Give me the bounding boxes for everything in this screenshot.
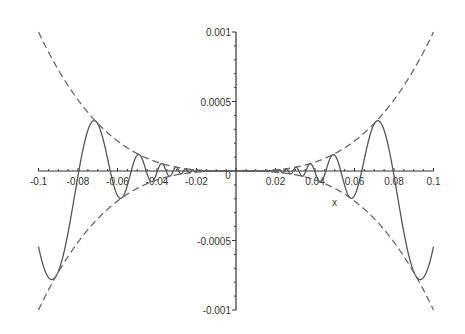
y-tick-label: 0.0005: [200, 97, 231, 108]
y-tick-label: -0.0005: [197, 236, 231, 247]
x-axis-label: x: [332, 197, 337, 208]
x-tick-label: -0.02: [185, 176, 208, 187]
x-tick-label: -0.06: [106, 176, 129, 187]
plot-canvas: -0.1-0.08-0.06-0.04-0.0200.020.040.060.0…: [0, 0, 465, 334]
y-tick-label: 0.001: [206, 27, 231, 38]
x-tick-label: 0.02: [266, 176, 286, 187]
x-tick-label: -0.1: [30, 176, 48, 187]
y-tick-label: -0.001: [203, 305, 232, 316]
x-tick-label: 0.1: [427, 176, 441, 187]
x-tick-label: 0.06: [345, 176, 365, 187]
